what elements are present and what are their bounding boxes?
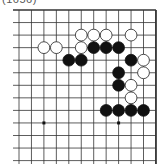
black-stone-icon xyxy=(63,54,75,66)
black-stone-icon xyxy=(138,105,150,117)
white-stone-icon xyxy=(75,42,87,54)
white-stone-icon xyxy=(138,54,150,66)
black-stone-icon xyxy=(125,105,137,117)
go-board xyxy=(0,0,163,164)
white-stone-icon xyxy=(88,29,100,41)
black-stone-icon xyxy=(88,42,100,54)
white-stone-icon xyxy=(75,29,87,41)
white-stone-icon xyxy=(125,79,137,91)
white-stone-icon xyxy=(125,92,137,104)
black-stone-icon xyxy=(113,105,125,117)
black-stone-icon xyxy=(125,54,137,66)
black-stone-icon xyxy=(113,67,125,79)
star-point-icon xyxy=(42,121,45,124)
white-stone-icon xyxy=(100,29,112,41)
white-stone-icon xyxy=(138,67,150,79)
black-stone-icon xyxy=(113,79,125,91)
black-stone-icon xyxy=(75,54,87,66)
black-stone-icon xyxy=(100,42,112,54)
white-stone-icon xyxy=(125,29,137,41)
white-stone-icon xyxy=(50,42,62,54)
black-stone-icon xyxy=(113,42,125,54)
star-point-icon xyxy=(117,121,120,124)
white-stone-icon xyxy=(38,42,50,54)
black-stone-icon xyxy=(100,105,112,117)
